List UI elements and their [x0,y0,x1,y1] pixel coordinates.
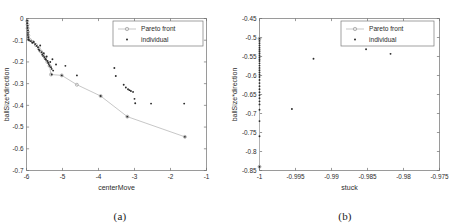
scatter-plot-b: -1-0.995-0.99-0.985-0.98-0.975-0.45-0.5-… [229,0,457,200]
individual-point [27,32,29,34]
individual-point [113,67,115,69]
y-tick-label: -0.2 [12,58,23,65]
individual-point [259,62,261,64]
individual-point [259,100,261,102]
individual-point [51,74,53,76]
y-tick-label: -0.6 [12,145,23,152]
legend-dot-marker [126,39,128,41]
individual-point [27,25,29,27]
individual-point [259,97,261,99]
individual-point [183,103,185,105]
individual-point [132,91,134,93]
y-tick-label: -0.4 [12,102,23,109]
individual-point [33,41,35,43]
legend-label: Pareto front [141,25,176,32]
individual-point [259,40,261,42]
individual-point [259,42,261,44]
individual-point [39,44,41,46]
y-tick-label: -0.1 [12,37,23,44]
individual-point [259,69,261,71]
x-tick-label: -0.975 [430,173,449,180]
individual-point [291,108,293,110]
y-tick-label: -0.7 [245,110,256,117]
individual-point [39,50,41,52]
legend-label: individual [141,36,169,43]
x-tick-label: -2 [168,173,174,180]
individual-point [49,65,51,67]
individual-point [61,74,63,76]
x-tick-label: -3 [132,173,138,180]
y-tick-label: -0.6 [245,72,256,79]
x-tick-label: -0.98 [396,173,411,180]
individual-point [26,22,28,24]
individual-point [27,27,29,29]
individual-point [37,46,39,48]
individual-point [259,60,261,62]
x-axis-title: stuck [341,184,358,191]
individual-point [259,109,261,111]
x-tick-label: -1 [257,173,263,180]
individual-point [52,70,54,72]
individual-point [43,52,45,54]
individual-point [115,75,117,77]
y-tick-label: -0.5 [245,34,256,41]
individual-point [49,61,51,63]
individual-point [44,56,46,58]
individual-point [134,98,136,100]
individual-point [313,58,315,60]
x-tick-label: -0.99 [324,173,339,180]
individual-point [259,135,261,137]
individual-point [259,53,261,55]
x-tick-label: -5 [60,173,66,180]
panel-a-caption: (a) [0,210,234,222]
y-tick-label: 0 [20,15,24,22]
individual-point [55,64,57,66]
individual-point [34,43,36,45]
individual-point [27,36,29,38]
legend-dot-marker [354,39,356,41]
legend-label: Pareto front [369,25,404,32]
y-axis-title: ballSize*direction [3,68,10,122]
individual-point [259,166,261,168]
individual-point [259,79,261,81]
individual-point [259,85,261,87]
y-tick-label: -0.7 [12,167,23,174]
individual-point [390,53,392,55]
individual-point [26,20,28,22]
individual-point [259,74,261,76]
scatter-plot-a: -6-5-4-3-2-10-0.1-0.2-0.3-0.4-0.5-0.6-0.… [0,0,228,200]
individual-point [48,63,50,65]
individual-point [46,60,48,62]
individual-point [28,39,30,41]
individual-point [259,58,261,60]
y-tick-label: -0.75 [242,129,257,136]
individual-point [126,116,128,118]
y-tick-label: -0.65 [242,91,257,98]
legend-label: individual [369,36,397,43]
individual-point [51,58,53,60]
individual-point [259,120,261,122]
individual-point [134,102,136,104]
individual-point [64,65,66,67]
figure-panel-a: -6-5-4-3-2-10-0.1-0.2-0.3-0.4-0.5-0.6-0.… [0,0,228,224]
individual-point [259,49,261,51]
individual-point [30,40,32,42]
individual-point [41,51,43,53]
individual-point [184,136,186,138]
y-axis-title: ballSize*direction [231,68,238,122]
x-tick-label: -4 [96,173,102,180]
figure-panel-b: -1-0.995-0.99-0.985-0.98-0.975-0.45-0.5-… [229,0,457,224]
individual-point [27,34,29,36]
individual-point [259,54,261,56]
x-axis-title: centerMove [98,184,135,191]
individual-point [123,84,125,86]
panel-b-caption: (b) [229,210,457,222]
individual-point [130,90,132,92]
y-tick-label: -0.85 [242,167,257,174]
individual-point [46,56,48,58]
individual-point [51,68,53,70]
y-tick-label: -0.45 [242,15,257,22]
y-tick-label: -0.55 [242,53,257,60]
individual-point [259,103,261,105]
individual-point [259,45,261,47]
